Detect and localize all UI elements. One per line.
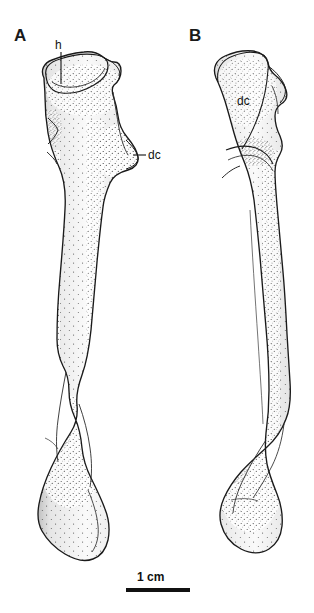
bone-panel-b <box>200 40 310 580</box>
annotation-label-dc-a: dc <box>148 148 161 162</box>
scale-bar-label: 1 cm <box>137 570 164 584</box>
bone-panel-a <box>30 40 155 580</box>
distal-flake-a <box>45 438 58 449</box>
panel-label-a: A <box>14 26 26 46</box>
crest-foot-b <box>222 166 240 178</box>
scale-bar-line <box>126 588 190 592</box>
figure-container: A B h dc dc 1 cm <box>0 0 314 613</box>
bone-illustration <box>0 0 314 613</box>
annotation-label-dc-b: dc <box>237 94 250 108</box>
annotation-label-h: h <box>55 38 62 52</box>
panel-label-b: B <box>189 26 201 46</box>
